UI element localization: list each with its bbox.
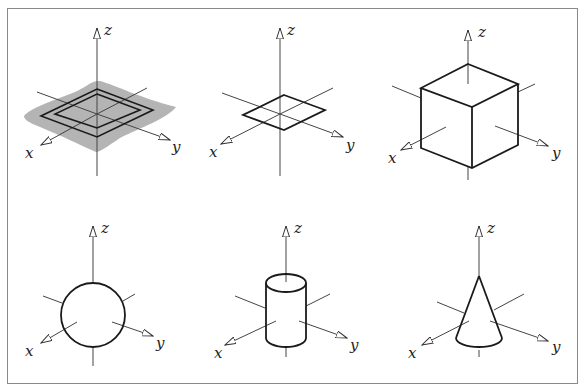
figure-canvas: z x y z x y z x y xyxy=(0,0,585,390)
x-axis-back xyxy=(306,294,330,306)
x-axis-back xyxy=(518,84,535,92)
x-label: x xyxy=(214,344,223,362)
z-label: z xyxy=(100,219,109,237)
x-label: x xyxy=(25,342,34,360)
panel-cone: z x y xyxy=(408,219,561,362)
x-label: x xyxy=(25,144,34,162)
y-label: y xyxy=(551,144,561,162)
x-label: x xyxy=(388,149,397,167)
y-label: y xyxy=(155,334,165,352)
x-axis xyxy=(422,321,469,345)
panel-sphere: z x y xyxy=(25,219,165,366)
x-axis xyxy=(401,127,446,150)
sphere-shape xyxy=(61,283,125,347)
z-label: z xyxy=(286,21,295,39)
y-axis-back xyxy=(437,302,464,313)
x-axis-back xyxy=(123,294,135,301)
y-label: y xyxy=(171,138,181,156)
y-axis xyxy=(495,126,548,146)
y-axis-back xyxy=(235,296,265,308)
y-axis-back xyxy=(392,86,421,98)
panel-cube: z x y xyxy=(388,23,561,180)
y-axis-back xyxy=(43,296,62,303)
y-label: y xyxy=(345,136,355,154)
y-label: y xyxy=(349,336,359,354)
cube-shape xyxy=(421,64,518,168)
cone-shape xyxy=(456,276,502,347)
z-label: z xyxy=(486,219,495,237)
cylinder-shape xyxy=(266,274,306,347)
panel-square: z x y xyxy=(209,21,355,176)
x-label: x xyxy=(408,344,417,362)
z-label: z xyxy=(293,219,302,237)
panel-cylinder: z x y xyxy=(214,219,359,362)
y-label: y xyxy=(551,338,561,356)
x-axis-back xyxy=(494,294,524,310)
x-label: x xyxy=(209,143,218,161)
z-label: z xyxy=(103,21,112,39)
z-label: z xyxy=(477,23,486,41)
panel-plane: z x y xyxy=(24,21,181,176)
